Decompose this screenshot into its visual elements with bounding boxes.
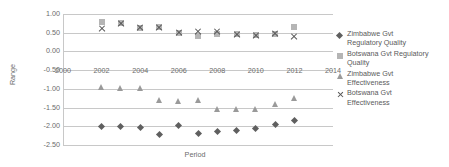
data-point (98, 25, 106, 33)
legend-item: Botswana GvtEffectiveness (337, 88, 447, 107)
data-point (271, 30, 279, 38)
legend-label: Quality (347, 58, 447, 67)
data-point (117, 19, 125, 27)
data-point (137, 124, 144, 131)
data-point (98, 123, 105, 130)
y-axis-tick-labels: 1.000.500.00-0.50-1.00-1.50-2.00-2.50 (20, 14, 60, 145)
data-point (155, 23, 163, 31)
legend-label: Regulatory Quality (347, 38, 447, 47)
y-tick-label: -2.50 (26, 141, 60, 149)
data-point (214, 128, 221, 135)
x-tick-label: 2006 (159, 66, 199, 76)
y-tick-label: -2.00 (26, 122, 60, 130)
gridline (63, 145, 333, 146)
legend-label: Botswana Gvt Regulatory (347, 49, 447, 58)
plot-area (63, 14, 333, 145)
gridline (63, 108, 333, 109)
x-tick-label: 2002 (82, 66, 122, 76)
x-axis-tick-labels: 20002002200420062008201020122014 (63, 66, 333, 78)
gridline (63, 51, 333, 52)
data-point (233, 127, 240, 134)
data-point (136, 24, 144, 32)
data-point (291, 24, 297, 30)
data-point (291, 117, 298, 124)
x-axis-title: Period (150, 150, 240, 159)
y-tick-label: 0.50 (26, 29, 60, 37)
diamond-marker-icon (336, 32, 343, 39)
data-point (98, 84, 104, 90)
square-marker-icon (337, 53, 343, 59)
legend-item: Zimbabwe GvtEffectiveness (337, 69, 447, 88)
y-tick-label: 1.00 (26, 10, 60, 18)
legend-label: Botswana Gvt (347, 88, 447, 97)
data-point (156, 131, 163, 138)
x-tick-label: 2012 (274, 66, 314, 76)
data-point (194, 27, 202, 35)
legend-label: Effectiveness (347, 78, 447, 87)
data-point (117, 123, 124, 130)
data-point (213, 28, 221, 36)
data-point (290, 32, 298, 40)
chart-figure: Range 1.000.500.00-0.50-1.00-1.50-2.00-2… (0, 0, 449, 167)
legend-label: Zimbabwe Gvt (347, 69, 447, 78)
data-point (252, 106, 258, 112)
data-point (291, 95, 297, 101)
data-point (137, 85, 143, 91)
legend-item: Zimbabwe GvtRegulatory Quality (337, 29, 447, 48)
data-point (194, 129, 201, 136)
legend-item: Botswana Gvt RegulatoryQuality (337, 49, 447, 68)
data-point (195, 97, 201, 103)
y-axis-title: Range (8, 53, 17, 97)
chart-legend: Zimbabwe GvtRegulatory QualityBotswana G… (337, 29, 447, 108)
data-point (233, 106, 239, 112)
data-point (272, 101, 278, 107)
data-point (233, 30, 241, 38)
x-tick-label: 2004 (120, 66, 160, 76)
legend-label: Effectiveness (347, 98, 447, 107)
y-tick-label: -1.00 (26, 85, 60, 93)
y-tick-label: -1.50 (26, 104, 60, 112)
x-tick-label: 2000 (43, 66, 83, 76)
triangle-marker-icon (337, 73, 343, 79)
data-point (117, 85, 123, 91)
data-point (175, 29, 183, 37)
data-point (175, 122, 182, 129)
x-tick-label: 2010 (236, 66, 276, 76)
data-point (214, 106, 220, 112)
gridline (63, 14, 333, 15)
data-point (156, 97, 162, 103)
legend-label: Zimbabwe Gvt (347, 29, 447, 38)
x-marker-icon (337, 91, 344, 98)
y-tick-label: 0.00 (26, 47, 60, 55)
data-point (252, 31, 260, 39)
x-tick-label: 2008 (197, 66, 237, 76)
data-point (175, 98, 181, 104)
